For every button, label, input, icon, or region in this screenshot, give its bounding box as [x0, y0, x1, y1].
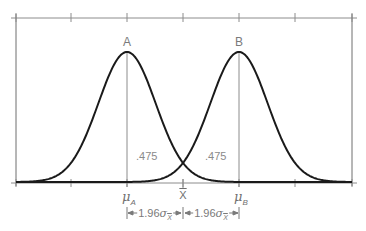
normal-distributions-figure: A B .475 .475 μA X μB 1.96σX 1.96σX [0, 0, 366, 231]
dimension-label-right: 1.96σX [193, 207, 229, 221]
area-label-left: .475 [136, 150, 157, 162]
area-label-right: .475 [205, 150, 226, 162]
mu-b-label: μB [234, 189, 248, 207]
xbar-label: X [179, 189, 186, 201]
mu-a-label: μA [122, 189, 136, 207]
peak-label-a: A [123, 35, 131, 49]
peak-label-b: B [235, 35, 243, 49]
curve-b [16, 52, 352, 182]
dimension-label-left: 1.96σX [137, 207, 173, 221]
